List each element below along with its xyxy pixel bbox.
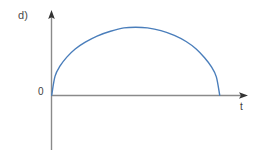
figure-panel: d) 0 t (0, 0, 268, 164)
origin-label: 0 (38, 86, 44, 98)
curve-arch (52, 27, 220, 95)
plot-canvas (0, 0, 268, 164)
x-axis-label: t (240, 101, 243, 113)
